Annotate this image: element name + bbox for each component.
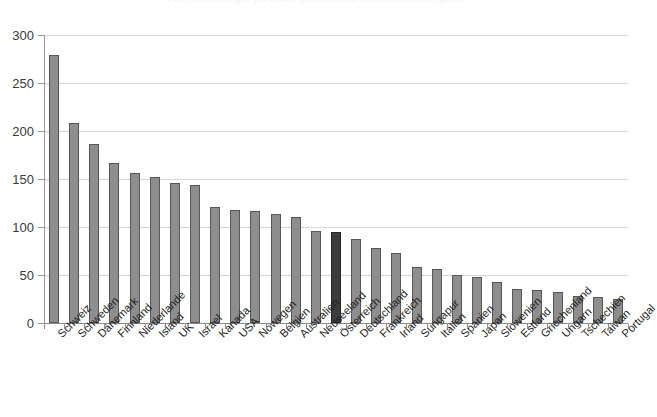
x-axis-tick <box>225 324 226 329</box>
y-axis-tick-label: 200 <box>0 131 38 132</box>
x-axis-tick <box>427 324 428 329</box>
x-axis-tick <box>145 324 146 329</box>
bar <box>250 211 260 323</box>
x-axis-tick <box>346 324 347 329</box>
y-axis-tick-value: 50 <box>20 268 34 283</box>
gridline <box>44 83 628 84</box>
gridline <box>44 131 628 132</box>
x-axis-tick <box>44 324 45 329</box>
y-axis-tick-label: 0 <box>0 323 38 324</box>
x-axis-tick <box>306 324 307 329</box>
bar <box>150 177 160 323</box>
x-axis-tick <box>527 324 528 329</box>
x-axis-tick <box>326 324 327 329</box>
y-axis-tick-label: 150 <box>0 179 38 180</box>
x-axis-tick <box>608 324 609 329</box>
x-axis-tick <box>406 324 407 329</box>
y-axis-tick-value: 0 <box>27 316 34 331</box>
bar <box>190 185 200 323</box>
y-axis-tick-value: 250 <box>12 76 34 91</box>
x-axis-tick <box>84 324 85 329</box>
x-axis-tick <box>64 324 65 329</box>
bar <box>69 123 79 323</box>
x-axis-tick <box>547 324 548 329</box>
x-axis-tick <box>588 324 589 329</box>
y-axis-tick-label: 50 <box>0 275 38 276</box>
x-axis-tick <box>125 324 126 329</box>
y-axis-tick-label: 300 <box>0 35 38 36</box>
y-axis-tick-value: 150 <box>12 172 34 187</box>
x-axis-tick <box>245 324 246 329</box>
x-axis-tick <box>165 324 166 329</box>
x-axis-tick <box>568 324 569 329</box>
y-axis-tick-label: 100 <box>0 227 38 228</box>
bar <box>210 207 220 323</box>
x-axis-tick <box>467 324 468 329</box>
bar <box>89 144 99 323</box>
gridline <box>44 35 628 36</box>
x-axis-tick <box>266 324 267 329</box>
x-axis-tick <box>185 324 186 329</box>
x-axis-tick <box>366 324 367 329</box>
y-axis-tick-value: 100 <box>12 220 34 235</box>
x-axis-tick <box>628 324 629 329</box>
x-axis-tick <box>487 324 488 329</box>
y-axis-tick-value: 300 <box>12 28 34 43</box>
x-axis-tick <box>286 324 287 329</box>
x-axis-tick <box>447 324 448 329</box>
x-axis-tick <box>205 324 206 329</box>
bar <box>230 210 240 323</box>
y-axis-tick-value: 200 <box>12 124 34 139</box>
y-axis-tick-label: 250 <box>0 83 38 84</box>
bar <box>49 55 59 323</box>
x-axis-tick <box>507 324 508 329</box>
x-axis-tick <box>104 324 105 329</box>
x-axis-tick <box>386 324 387 329</box>
y-axis-line <box>44 35 45 324</box>
